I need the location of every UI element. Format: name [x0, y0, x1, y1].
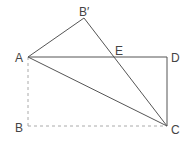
label-point-E: E: [115, 44, 123, 58]
label-point-B-prime: B′: [79, 5, 90, 19]
segment-AC: [28, 57, 167, 126]
segment-AB-prime: [28, 18, 84, 57]
label-point-B: B: [15, 121, 23, 135]
geometry-diagram: A B C D B′ E: [0, 0, 188, 142]
label-point-C: C: [171, 123, 180, 137]
label-point-A: A: [15, 51, 23, 65]
label-point-D: D: [171, 51, 180, 65]
segment-B-prime-C: [84, 18, 167, 126]
